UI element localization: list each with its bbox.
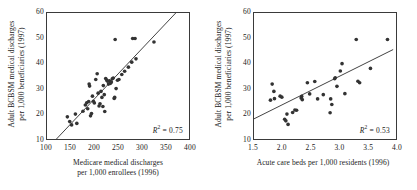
y-axis-tick-label: 20 xyxy=(231,110,251,118)
data-point xyxy=(328,111,332,115)
data-point xyxy=(272,90,276,94)
data-point xyxy=(102,84,106,88)
data-point xyxy=(88,84,92,88)
figure-scatter-pair: 102030405060 R2 = 0.75 10015020025030035… xyxy=(0,0,417,190)
data-point xyxy=(134,57,138,61)
data-point xyxy=(273,97,277,101)
x-axis-tick-label: 2.5 xyxy=(306,143,316,152)
y-axis-tick-label: 20 xyxy=(24,110,44,118)
data-point xyxy=(90,112,94,116)
y-axis-label-right-line2: per 1,000 beneficiaries (1997) xyxy=(224,10,234,138)
data-point xyxy=(103,110,107,114)
data-point xyxy=(330,103,334,107)
data-point xyxy=(93,101,97,105)
data-point xyxy=(316,97,320,101)
y-axis-label-right-line1: Adult BCBSM medical discharges xyxy=(214,10,224,138)
data-point xyxy=(114,87,118,91)
data-point xyxy=(313,80,317,84)
x-axis-label-right: Acute care beds per 1,000 residents (199… xyxy=(223,158,417,168)
x-axis-label-left-line1: Medicare medical discharges xyxy=(30,158,206,168)
x-axis-tick-label: 250 xyxy=(112,143,124,152)
data-point xyxy=(102,93,106,97)
y-axis-tick-label: 50 xyxy=(231,34,251,42)
y-axis-label-left: Adult BCBSM medical discharges per 1,000… xyxy=(7,10,26,138)
y-axis-tick-label: 40 xyxy=(24,59,44,67)
y-axis-label-left-line1: Adult BCBSM medical discharges xyxy=(7,10,17,138)
data-point xyxy=(117,78,121,82)
y-axis-label-left-line2: per 1,000 beneficiaries (1997) xyxy=(17,10,27,138)
data-point xyxy=(81,109,85,113)
x-axis-label-right-line1: Acute care beds per 1,000 residents (199… xyxy=(223,158,417,168)
x-axis-tick-label: 2.0 xyxy=(277,143,287,152)
x-axis-tick-label: 4.0 xyxy=(392,143,402,152)
data-point xyxy=(87,100,91,104)
data-point xyxy=(306,81,310,85)
data-point xyxy=(113,96,117,100)
data-point xyxy=(284,119,288,123)
x-axis-tick-label: 350 xyxy=(160,143,172,152)
data-point xyxy=(127,65,131,69)
data-point xyxy=(321,93,325,97)
data-point xyxy=(280,95,284,99)
data-point xyxy=(110,80,114,84)
data-point xyxy=(333,76,337,80)
data-point xyxy=(343,92,347,96)
data-point xyxy=(269,98,273,102)
data-point xyxy=(133,37,137,41)
data-point xyxy=(354,38,358,42)
y-axis-tick-label: 40 xyxy=(231,59,251,67)
x-axis-label-left-line2: per 1,000 enrollees (1996) xyxy=(30,168,206,178)
r-squared-value-left: 0.75 xyxy=(169,125,183,134)
x-axis-ticks-right: 1.52.02.53.03.54.0 xyxy=(253,143,397,155)
data-point xyxy=(111,76,115,80)
x-axis-label-left: Medicare medical discharges per 1,000 en… xyxy=(30,158,206,178)
data-point xyxy=(91,94,95,98)
r-squared-value-right: 0.53 xyxy=(376,125,390,134)
fit-line-left xyxy=(56,13,175,139)
data-point xyxy=(95,72,99,76)
x-axis-tick-label: 200 xyxy=(88,143,100,152)
data-point xyxy=(270,82,274,86)
data-point xyxy=(66,115,70,119)
x-axis-tick-label: 3.0 xyxy=(334,143,344,152)
data-point xyxy=(130,60,134,64)
scatter-plot-left xyxy=(47,13,189,139)
data-point xyxy=(123,69,127,73)
data-point xyxy=(286,123,290,127)
data-point xyxy=(120,73,124,77)
data-point xyxy=(308,92,312,96)
data-point xyxy=(101,105,105,109)
y-axis-tick-label: 60 xyxy=(24,8,44,16)
data-point xyxy=(358,81,362,85)
data-point xyxy=(100,96,104,100)
r-squared-annotation-left: R2 = 0.75 xyxy=(153,123,183,135)
r-squared-annotation-right: R2 = 0.53 xyxy=(360,123,390,135)
x-axis-tick-label: 300 xyxy=(136,143,148,152)
scatter-plot-right xyxy=(254,13,396,139)
data-point xyxy=(300,98,304,102)
y-axis-tick-label: 30 xyxy=(231,85,251,93)
chart-panel-right: 102030405060 R2 = 0.53 1.52.02.53.03.54.… xyxy=(209,0,417,190)
chart-panel-left: 102030405060 R2 = 0.75 10015020025030035… xyxy=(0,0,208,190)
data-point xyxy=(113,38,117,42)
data-point xyxy=(340,62,344,66)
y-axis-tick-label: 50 xyxy=(24,34,44,42)
data-point xyxy=(99,90,103,94)
data-point xyxy=(369,67,373,71)
x-axis-tick-label: 100 xyxy=(40,143,52,152)
plot-area-right: R2 = 0.53 xyxy=(253,12,397,140)
y-axis-label-right: Adult BCBSM medical discharges per 1,000… xyxy=(214,10,233,138)
x-axis-tick-label: 150 xyxy=(64,143,76,152)
fit-line-right xyxy=(254,50,393,119)
data-point xyxy=(152,40,156,44)
data-point xyxy=(329,97,333,101)
data-points-left xyxy=(66,37,156,127)
data-point xyxy=(335,85,339,89)
data-point xyxy=(285,112,289,116)
x-axis-tick-label: 400 xyxy=(184,143,196,152)
data-point xyxy=(94,78,98,82)
x-axis-tick-label: 1.5 xyxy=(248,143,258,152)
data-point xyxy=(300,95,304,99)
data-point xyxy=(70,123,74,127)
x-axis-ticks-left: 100150200250300350400 xyxy=(46,143,190,155)
